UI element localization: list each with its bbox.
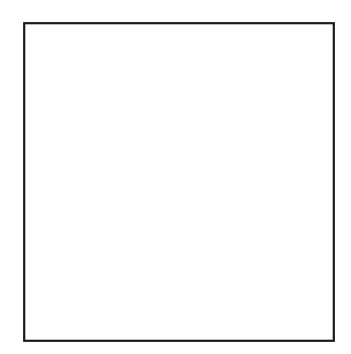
- map-frame: [24, 23, 334, 341]
- distribution-map-figure: [0, 0, 351, 354]
- figure-root: [0, 0, 351, 354]
- map-svg: [0, 0, 351, 354]
